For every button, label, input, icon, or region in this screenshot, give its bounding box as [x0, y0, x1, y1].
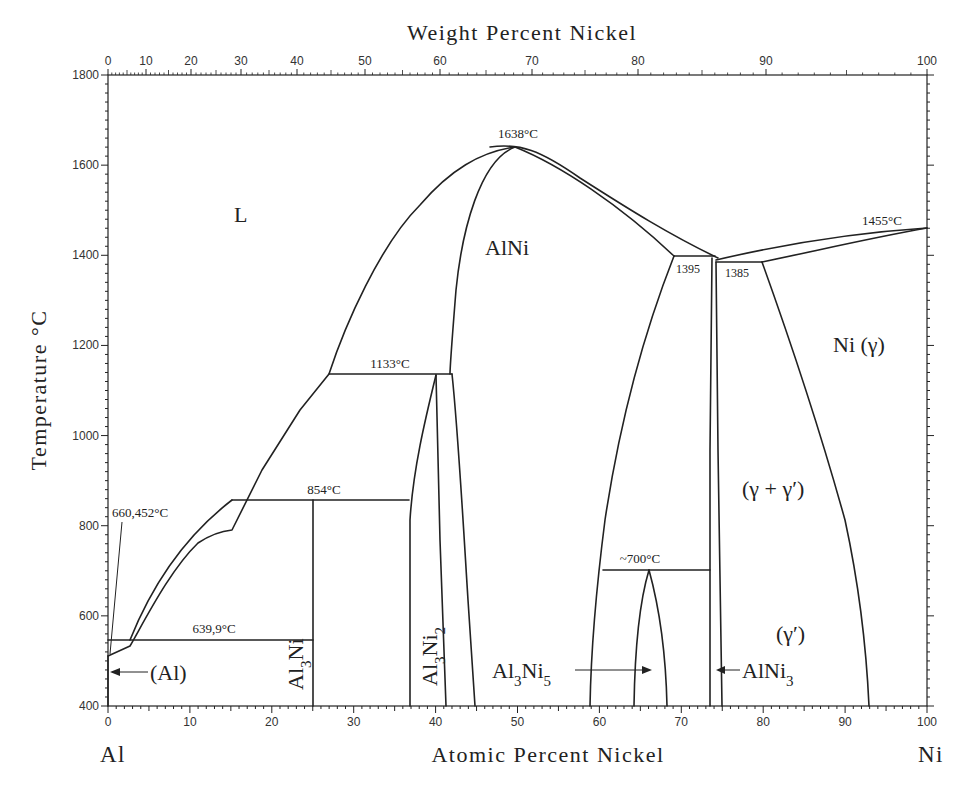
x2-tick-label: 40 [290, 54, 304, 68]
y-tick-label: 600 [79, 609, 99, 623]
alni-solvus-right [590, 256, 674, 706]
element-label-ni: Ni [918, 742, 944, 767]
y-tick-label: 800 [79, 519, 99, 533]
y-tick-label: 1800 [72, 68, 99, 82]
region-label-ni-gamma: Ni (γ) [833, 332, 885, 357]
x2-tick-label: 50 [358, 54, 372, 68]
x-axis-tick-labels: 0102030405060708090100 [105, 715, 938, 729]
region-label-al: (Al) [150, 660, 187, 685]
y-tick-label: 400 [79, 699, 99, 713]
annotation-639: 639,9°C [192, 621, 235, 636]
arrow-al3ni5 [642, 666, 652, 674]
x-tick-label: 60 [593, 715, 607, 729]
x2-tick-label: 60 [433, 54, 447, 68]
alni-solvus-lower [452, 374, 475, 706]
x-axis-title: Atomic Percent Nickel [431, 742, 664, 767]
x2-tick-label: 10 [139, 54, 153, 68]
x2-tick-label: 30 [234, 54, 248, 68]
x-tick-label: 80 [757, 715, 771, 729]
y-axis-title: Temperature °C [26, 310, 51, 471]
annotation-1395: 1395 [676, 262, 700, 276]
x-tick-label: 50 [511, 715, 525, 729]
annotation-1133: 1133°C [370, 356, 409, 371]
x-tick-label: 90 [838, 715, 852, 729]
x2-tick-label: 20 [184, 54, 198, 68]
x-tick-label: 40 [429, 715, 443, 729]
leader-660 [110, 522, 122, 654]
y-tick-label: 1600 [72, 158, 99, 172]
element-label-al: Al [100, 742, 126, 767]
annotation-700: ~700°C [620, 551, 660, 566]
region-label-al3ni: Al3Ni [283, 639, 314, 691]
al3ni5-left [634, 570, 649, 706]
x2-tick-label: 90 [759, 54, 773, 68]
alni-solvus-left [450, 147, 515, 374]
x2-axis-tick-labels: 0102030405060708090100 [105, 54, 938, 68]
region-label-alni: AlNi [485, 235, 529, 260]
region-label-al3ni5: Al3Ni5 [492, 658, 551, 689]
arrow-al [110, 668, 120, 676]
phase-diagram-chart: 40060080010001200140016001800 0102030405… [0, 0, 969, 793]
al3ni5-right [649, 570, 667, 706]
annotation-1385: 1385 [725, 266, 749, 280]
region-label-liquid: L [234, 202, 247, 227]
annotation-854: 854°C [307, 482, 340, 497]
x-tick-label: 0 [105, 715, 112, 729]
alni3-left [710, 258, 712, 706]
x2-axis-title: Weight Percent Nickel [407, 20, 637, 45]
region-label-gamma-gamma-prime: (γ + γ′) [742, 476, 804, 501]
annotation-660: 660,452°C [112, 505, 168, 520]
x-tick-label: 20 [265, 715, 279, 729]
x2-tick-label: 100 [917, 54, 937, 68]
region-label-alni3: AlNi3 [742, 658, 794, 689]
x2-tick-label: 0 [105, 54, 112, 68]
y-tick-label: 1400 [72, 248, 99, 262]
alni3-right [716, 262, 722, 706]
x-tick-label: 10 [183, 715, 197, 729]
liquidus-ni [716, 228, 927, 260]
arrow-alni3 [716, 666, 725, 674]
x-tick-label: 70 [675, 715, 689, 729]
x2-tick-label: 70 [525, 54, 539, 68]
x-tick-label: 30 [347, 715, 361, 729]
x2-tick-label: 80 [631, 54, 645, 68]
axis-ticks [101, 69, 934, 713]
x-tick-label: 100 [917, 715, 937, 729]
y-axis-tick-labels: 40060080010001200140016001800 [72, 68, 99, 713]
annotation-1638: 1638°C [498, 126, 538, 141]
region-label-gamma-prime: (γ′) [776, 621, 805, 646]
plot-frame [108, 75, 927, 706]
annotation-1455: 1455°C [862, 213, 902, 228]
y-tick-label: 1000 [72, 429, 99, 443]
y-tick-label: 1200 [72, 338, 99, 352]
solidus-right [515, 147, 674, 256]
